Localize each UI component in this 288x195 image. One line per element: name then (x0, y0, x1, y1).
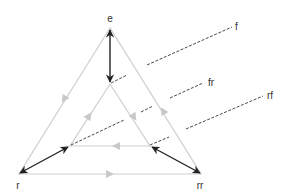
axis-label-rf: rf (267, 90, 273, 101)
axis-label-f: f (235, 21, 238, 32)
axis-rf-segment (186, 96, 263, 129)
axis-fr-segment (170, 83, 203, 98)
arrow-icon (112, 142, 120, 150)
node-label-rr: rr (197, 180, 204, 191)
triangle-diagram: e r rr f fr rf (0, 0, 288, 195)
node-label-e: e (107, 13, 113, 24)
axis-label-fr: fr (208, 77, 215, 88)
inner-triangle (70, 84, 150, 146)
axis-rf-segment (150, 137, 169, 145)
double-arrows (20, 30, 200, 173)
axis-fr-segment (141, 106, 153, 112)
node-label-r: r (16, 180, 20, 191)
arrow-icon (84, 110, 95, 121)
axis-f-segment (147, 27, 232, 65)
axis-f-segment (111, 75, 127, 83)
arrow-icon (106, 170, 114, 178)
